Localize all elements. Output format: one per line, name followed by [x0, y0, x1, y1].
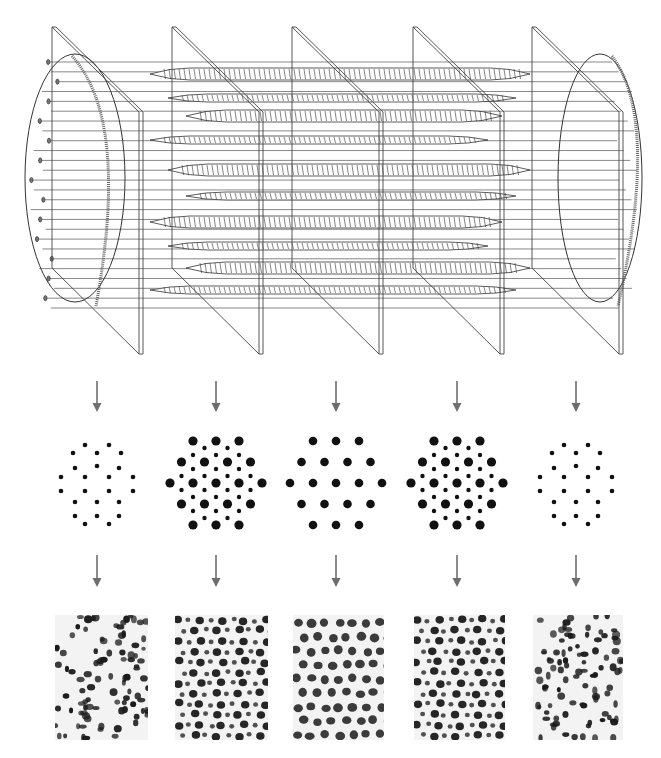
micrograph-blob [233, 690, 241, 698]
micrograph-blob [604, 691, 610, 697]
micrograph-blob [469, 640, 474, 645]
micrograph-blob [268, 629, 273, 634]
micrograph-blob [536, 677, 543, 685]
micrograph-blob [84, 671, 92, 677]
micrograph-blob [426, 721, 431, 726]
micrograph-blob [298, 688, 306, 697]
filament-end-cap [30, 177, 33, 182]
thin-filament-dot [455, 495, 459, 499]
micrograph-frame [175, 615, 268, 740]
micrograph-blob [224, 650, 229, 655]
thin-filament-dot [95, 451, 100, 456]
thick-filament-dot [309, 521, 318, 530]
micrograph-blob [605, 612, 610, 620]
thin-filament-dot [478, 495, 482, 499]
thin-filament-dot [466, 488, 470, 492]
thin-filament-dot [73, 514, 78, 519]
micrograph-blob [186, 722, 191, 727]
micrograph-blob [229, 724, 234, 729]
micrograph-blob [293, 731, 302, 738]
micrograph-blob [347, 619, 357, 627]
micrograph-blob [189, 690, 197, 698]
micrograph-blob [141, 647, 145, 651]
thin-filament-dot [478, 509, 482, 513]
micrograph-blob [213, 689, 221, 697]
micrograph-blob [377, 703, 385, 712]
micrograph-blob [294, 704, 303, 712]
micrograph-blob [421, 732, 426, 737]
micrograph-blob [333, 703, 343, 712]
micrograph-blob [421, 649, 426, 654]
thin-filament-dot [225, 488, 229, 492]
micrograph-blob [87, 684, 95, 691]
micrograph-blob [185, 617, 190, 622]
micrograph-blob [553, 649, 560, 655]
down-arrow-icon [572, 578, 581, 587]
thick-filament-dot [188, 520, 197, 529]
micrograph-blob [508, 628, 513, 633]
micrograph-blob [208, 703, 213, 708]
micrograph-blob [212, 733, 220, 741]
micrograph-blob [231, 680, 236, 685]
micrograph-blob [562, 732, 569, 737]
thin-filament-dot [73, 466, 78, 471]
micrograph-blob [248, 649, 253, 654]
micrograph-blob [368, 688, 377, 696]
micrograph-blob [114, 725, 122, 732]
thin-filament-dot [552, 466, 557, 471]
thin-filament-dot [466, 474, 470, 478]
thin-filament-dot [466, 516, 470, 520]
thick-filament-dot [332, 437, 341, 446]
thin-filament-dot [237, 453, 241, 457]
micrograph-blob [246, 712, 251, 717]
micrograph-blob [544, 710, 549, 715]
micrograph-blob [431, 710, 439, 718]
micrograph-blob [500, 680, 508, 688]
thin-filament-dot [95, 464, 100, 469]
micrograph-blob [328, 662, 338, 670]
thin-filament-dot [202, 446, 206, 450]
micrograph-blob [473, 648, 481, 656]
thin-filament-dot [237, 467, 241, 471]
thick-filament-dot [234, 478, 243, 487]
micrograph-blob [557, 687, 561, 692]
micrograph-blob [612, 631, 620, 639]
micrograph-blob [83, 627, 88, 633]
micrograph-blob [465, 732, 470, 737]
thin-filament-dot [248, 488, 252, 492]
micrograph-blob [509, 650, 514, 655]
micrograph-blob [232, 660, 237, 665]
micrograph-blob [364, 648, 372, 656]
thin-filament-dot [179, 488, 183, 492]
micrograph-blob [580, 652, 588, 657]
micrograph-blob [145, 685, 150, 691]
thin-filament-dot [478, 453, 482, 457]
micrograph-blob [256, 732, 264, 740]
micrograph-blob [307, 648, 316, 657]
micrograph-blob [256, 625, 264, 633]
micrograph-blob [585, 625, 591, 632]
micrograph-blob [320, 730, 328, 738]
thin-filament-dot [466, 446, 470, 450]
thick-filament-dot [429, 436, 438, 445]
thin-filament-dot [83, 489, 88, 494]
micrograph-blob [299, 715, 309, 723]
micrograph-blob [60, 650, 67, 657]
down-arrow-icon [572, 555, 581, 587]
micrograph-blob [435, 637, 443, 645]
thick-filament-dot [320, 500, 329, 509]
down-arrow-icon [332, 403, 341, 412]
micrograph-blob [300, 633, 309, 642]
thick-filament-dot [297, 500, 306, 509]
micrograph-blob [593, 613, 598, 620]
thick-filament-dot [475, 520, 484, 529]
micrograph-blob [329, 634, 338, 642]
micrograph-blob [127, 688, 131, 694]
micrograph-blob [413, 616, 421, 624]
thin-filament-dot [248, 474, 252, 478]
micrograph-blob [604, 655, 609, 661]
thick-filament-dot [487, 499, 496, 508]
micrograph-blob [241, 701, 249, 709]
micrograph-blob [314, 662, 323, 669]
micrograph-blob [500, 615, 508, 623]
